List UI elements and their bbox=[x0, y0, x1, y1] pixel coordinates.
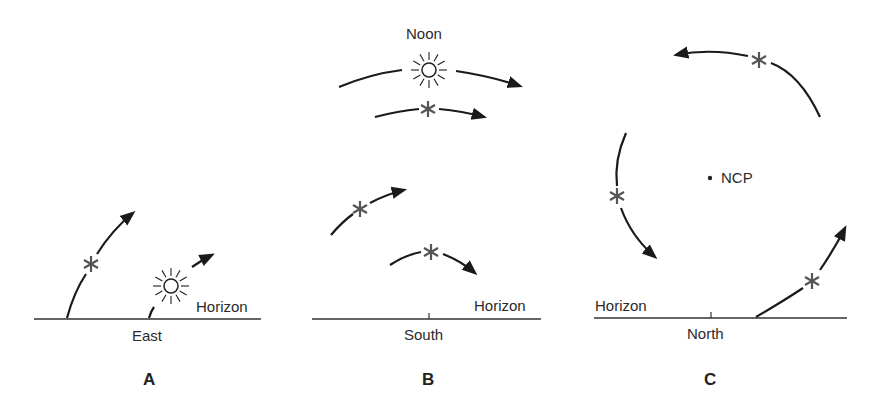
horizon-label-c: Horizon bbox=[595, 297, 647, 314]
sun-path-noon-left bbox=[339, 70, 402, 87]
star-path-mid-right bbox=[370, 190, 404, 203]
star-path-left-upper bbox=[616, 133, 626, 186]
direction-label-north: North bbox=[687, 325, 724, 342]
star-icon bbox=[84, 256, 98, 272]
star-icon bbox=[353, 201, 367, 217]
star-path-rising-a bbox=[67, 274, 86, 318]
panel-b bbox=[312, 52, 541, 319]
ncp-label: NCP bbox=[721, 169, 753, 186]
star-path-high-right bbox=[439, 109, 484, 117]
sky-motion-diagram bbox=[0, 0, 885, 410]
panel-label-c: C bbox=[704, 370, 716, 390]
star-icon bbox=[424, 244, 438, 260]
star-icon bbox=[610, 188, 624, 204]
sun-icon bbox=[153, 268, 189, 304]
sun-icon bbox=[411, 52, 447, 88]
ncp-dot bbox=[708, 176, 712, 180]
horizon-label-b: Horizon bbox=[474, 297, 526, 314]
direction-label-east: East bbox=[132, 327, 162, 344]
star-path-high-left bbox=[375, 109, 419, 117]
sun-path-rising-a-upper bbox=[192, 255, 212, 267]
star-path-right-upper bbox=[820, 228, 845, 270]
star-icon bbox=[805, 273, 819, 289]
horizon-label-a: Horizon bbox=[196, 298, 248, 315]
star-path-rising-a-upper bbox=[97, 213, 133, 254]
sun-path-noon-right bbox=[456, 71, 520, 86]
noon-label: Noon bbox=[406, 25, 442, 42]
star-path-low-left bbox=[390, 252, 421, 265]
direction-label-south: South bbox=[404, 326, 443, 343]
star-icon bbox=[421, 101, 435, 117]
star-path-mid-left bbox=[331, 214, 353, 235]
star-path-top-right bbox=[771, 63, 820, 117]
sun-path-rising-a bbox=[149, 307, 154, 318]
star-path-right-lower bbox=[756, 288, 803, 317]
panel-label-a: A bbox=[143, 370, 155, 390]
panel-label-b: B bbox=[422, 370, 434, 390]
star-path-left-lower bbox=[621, 208, 655, 257]
star-path-top-left bbox=[676, 52, 748, 56]
star-icon bbox=[752, 52, 766, 68]
star-path-low-right bbox=[443, 254, 475, 273]
